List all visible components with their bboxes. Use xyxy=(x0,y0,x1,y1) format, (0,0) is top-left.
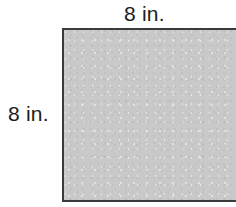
top-dimension-label: 8 in. xyxy=(124,3,165,24)
left-dimension-label: 8 in. xyxy=(8,103,49,124)
geometry-figure: 8 in. 8 in. xyxy=(0,0,236,207)
square-shape xyxy=(62,28,236,202)
